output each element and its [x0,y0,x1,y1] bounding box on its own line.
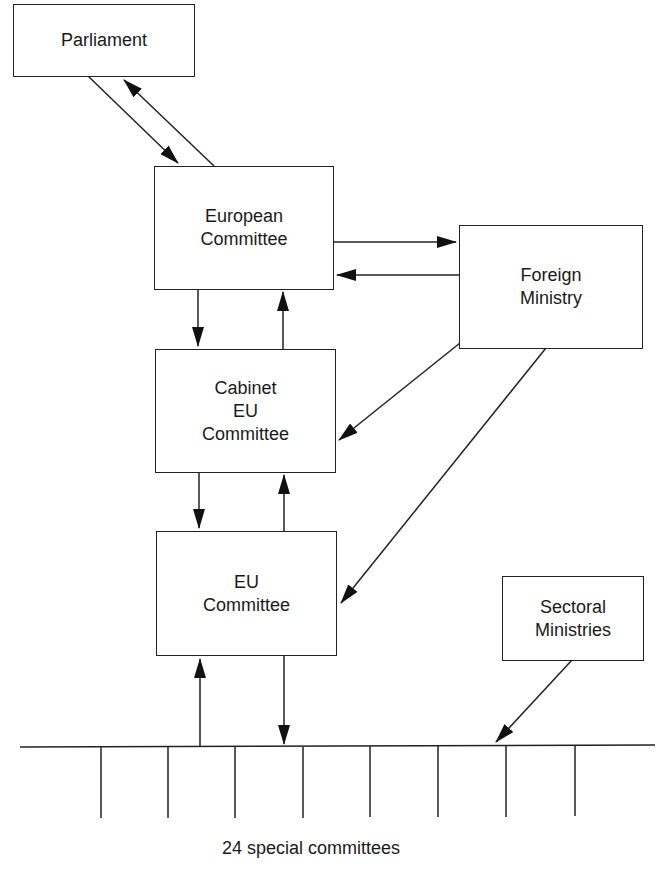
node-label-line: Committee [203,594,290,617]
node-label-line: Parliament [61,29,147,52]
edge-foreign-to-eu-committee [341,348,546,603]
special-committees-bus [20,745,655,747]
node-label-line: Ministry [520,287,582,310]
node-label-line: Sectoral [535,596,611,619]
node-label-line: EU [203,571,290,594]
edge-foreign-to-cabinet [339,343,460,440]
node-parliament: Parliament [13,4,195,77]
node-label-line: Foreign [520,264,582,287]
node-european-committee: European Committee [154,166,334,290]
edge-sectoral-to-bus [496,660,572,742]
node-eu-committee: EU Committee [156,531,337,656]
special-committees-label: 24 special committees [222,838,400,859]
node-label-line: EU [202,400,289,423]
node-label-line: Committee [200,228,287,251]
node-label-line: Cabinet [202,377,289,400]
node-label-line: European [200,205,287,228]
special-committee-ticks [101,746,575,818]
node-label-line: Ministries [535,619,611,642]
node-foreign-ministry: Foreign Ministry [459,225,643,349]
node-label-line: Committee [202,423,289,446]
node-cabinet-eu-committee: Cabinet EU Committee [155,349,336,473]
node-sectoral-ministries: Sectoral Ministries [502,576,644,661]
